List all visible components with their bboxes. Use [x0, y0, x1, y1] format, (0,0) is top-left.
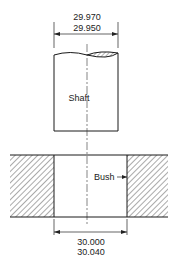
shaft-break-section [87, 52, 118, 57]
arrow-left-icon [54, 32, 60, 36]
shaft-dim-lower: 29.950 [73, 23, 101, 33]
leader-arrow-icon [122, 175, 127, 179]
shaft-dimension: 29.970 29.950 [54, 12, 118, 48]
bush-wall-right [127, 155, 168, 217]
shaft-dim-upper: 29.970 [73, 12, 101, 22]
bush-dim-lower: 30.040 [77, 247, 105, 257]
bush-dim-upper: 30.000 [77, 237, 105, 247]
arrow-left-icon [54, 230, 60, 234]
shaft: Shaft [54, 52, 118, 131]
bush-label: Bush [94, 172, 115, 182]
bush-wall-left [10, 155, 54, 217]
arrow-right-icon [121, 230, 127, 234]
bush: Bush [10, 155, 168, 217]
arrow-right-icon [112, 32, 118, 36]
bush-dimension: 30.000 30.040 [54, 219, 127, 257]
fit-drawing: 29.970 29.950 Shaft Bush 30.000 30.040 [0, 0, 177, 266]
